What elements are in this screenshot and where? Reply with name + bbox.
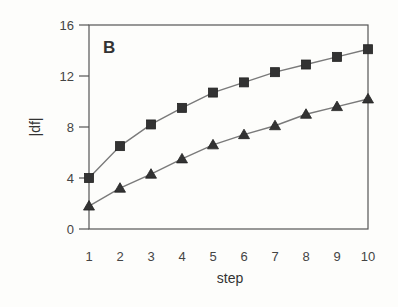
y-tick-label: 4 <box>67 171 74 186</box>
chart: 0481216 12345678910 B step |df| <box>0 0 398 307</box>
x-axis-label: step <box>217 270 244 286</box>
x-tick-label: 1 <box>85 249 92 264</box>
square-marker <box>302 60 311 69</box>
y-axis-label: |df| <box>27 118 43 137</box>
square-marker <box>85 174 94 183</box>
x-tick-label: 9 <box>333 249 340 264</box>
x-tick-label: 3 <box>147 249 154 264</box>
x-tick-label: 6 <box>240 249 247 264</box>
panel-label: B <box>103 38 115 57</box>
y-tick-label: 16 <box>60 18 74 33</box>
x-tick-label: 2 <box>116 249 123 264</box>
x-axis-ticks: 12345678910 <box>85 249 375 264</box>
square-marker <box>240 78 249 87</box>
square-marker <box>271 68 280 77</box>
square-marker <box>209 88 218 97</box>
series-layer <box>84 45 374 210</box>
y-tick-label: 8 <box>67 120 74 135</box>
square-marker <box>116 142 125 151</box>
triangle-marker <box>363 93 374 103</box>
x-tick-label: 5 <box>209 249 216 264</box>
triangle-marker <box>115 183 126 193</box>
square-marker <box>364 45 373 54</box>
square-marker <box>147 120 156 129</box>
series-line-triangles <box>89 99 368 206</box>
square-marker <box>333 52 342 61</box>
square-marker <box>178 103 187 112</box>
x-tick-label: 7 <box>271 249 278 264</box>
triangle-marker <box>177 153 188 163</box>
y-axis-ticks: 0481216 <box>60 18 89 237</box>
series-line-squares <box>89 49 368 178</box>
plot-frame <box>89 25 368 229</box>
y-tick-label: 12 <box>60 69 74 84</box>
triangle-marker <box>84 201 95 211</box>
x-tick-label: 4 <box>178 249 185 264</box>
triangle-marker <box>146 169 157 179</box>
x-tick-label: 10 <box>361 249 375 264</box>
x-tick-label: 8 <box>302 249 309 264</box>
y-tick-label: 0 <box>67 222 74 237</box>
